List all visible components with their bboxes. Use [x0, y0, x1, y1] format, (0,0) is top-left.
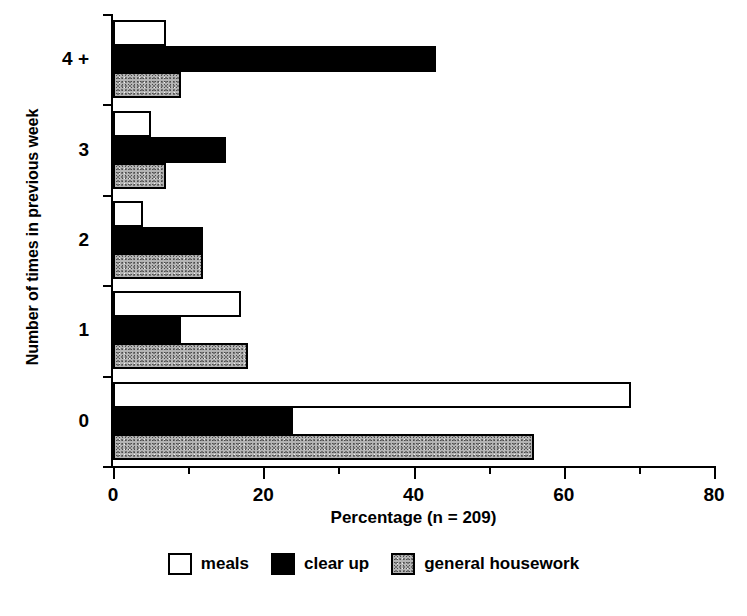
bar-housework-4: [113, 72, 181, 98]
y-tick: [103, 14, 112, 16]
x-tick-major: [414, 466, 416, 479]
x-tick-label: 40: [384, 484, 444, 506]
bar-clearup-3: [113, 137, 226, 163]
bar-meals-3: [113, 111, 151, 137]
bar-housework-2: [113, 253, 203, 279]
x-axis-line: [111, 466, 714, 468]
legend-label: general housework: [424, 554, 579, 574]
x-tick-minor: [338, 466, 340, 474]
x-tick-minor: [639, 466, 641, 474]
x-tick-major: [564, 466, 566, 479]
bar-housework-0: [113, 434, 534, 460]
x-tick-label: 20: [233, 484, 293, 506]
y-tick: [103, 285, 112, 287]
x-tick-major: [113, 466, 115, 479]
bar-meals-1: [113, 291, 241, 317]
x-tick-minor: [188, 466, 190, 474]
y-tick-label: 0: [29, 410, 89, 432]
y-tick: [103, 466, 112, 468]
legend-item-clearup: clear up: [271, 553, 369, 575]
y-tick-label: 4 +: [29, 48, 89, 70]
legend-label: meals: [201, 554, 249, 574]
bar-clearup-0: [113, 408, 293, 434]
y-tick: [103, 195, 112, 197]
y-tick: [103, 104, 112, 106]
bar-clearup-2: [113, 227, 203, 253]
x-tick-label: 60: [534, 484, 594, 506]
legend-swatch-housework: [391, 553, 415, 575]
legend-label: clear up: [304, 554, 369, 574]
chart-legend: mealsclear upgeneral housework: [0, 553, 747, 575]
bar-clearup-1: [113, 317, 181, 343]
legend-swatch-meals: [168, 553, 192, 575]
y-tick-label: 3: [29, 139, 89, 161]
y-tick-label: 2: [29, 229, 89, 251]
x-tick-label: 80: [684, 484, 744, 506]
bar-meals-2: [113, 201, 143, 227]
x-tick-major: [263, 466, 265, 479]
plot-area: 01234 + 020406080: [113, 14, 714, 466]
x-tick-major: [714, 466, 716, 479]
y-tick-label: 1: [29, 319, 89, 341]
bar-meals-4: [113, 20, 166, 46]
y-tick: [103, 376, 112, 378]
bar-chart-figure: Number of times in previous week 01234 +…: [0, 0, 747, 616]
x-tick-label: 0: [83, 484, 143, 506]
bar-meals-0: [113, 382, 631, 408]
bar-housework-1: [113, 343, 248, 369]
legend-item-meals: meals: [168, 553, 249, 575]
x-tick-minor: [489, 466, 491, 474]
legend-swatch-clearup: [271, 553, 295, 575]
legend-item-housework: general housework: [391, 553, 579, 575]
bar-clearup-4: [113, 46, 436, 72]
bar-housework-3: [113, 163, 166, 189]
x-axis-title: Percentage (n = 209): [113, 508, 714, 528]
